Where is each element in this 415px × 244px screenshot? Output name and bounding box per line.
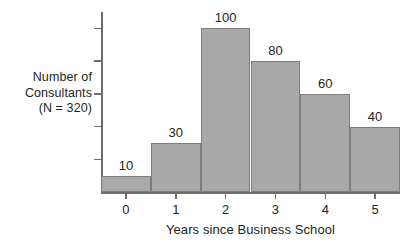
x-axis-line [101, 192, 400, 194]
bar [101, 176, 151, 192]
x-axis-tick [225, 192, 227, 199]
x-axis-title: Years since Business School [101, 222, 400, 237]
x-axis-tick [374, 192, 376, 199]
y-axis-tick [94, 28, 101, 30]
x-axis-tick-label: 3 [260, 202, 290, 217]
bar [350, 127, 400, 192]
bar [151, 143, 201, 192]
y-axis-label: Number of Consultants (N = 320) [0, 70, 92, 117]
histogram-chart: Number of Consultants (N = 320) 012345 1… [0, 0, 415, 244]
x-axis-tick [275, 192, 277, 199]
x-axis-tick-label: 0 [111, 202, 141, 217]
y-axis-tick [94, 60, 101, 62]
x-axis-tick-label: 2 [211, 202, 241, 217]
x-axis-tick [325, 192, 327, 199]
x-axis-tick [175, 192, 177, 199]
y-axis-label-line-1: Number of [0, 70, 92, 86]
x-axis-tick [125, 192, 127, 199]
bar [251, 61, 301, 192]
bar-value-label: 10 [103, 158, 149, 173]
y-axis-tick [94, 159, 101, 161]
bar-value-label: 100 [203, 10, 249, 25]
plot-area: 012345 1030100806040 [101, 12, 400, 192]
bar-value-label: 30 [153, 125, 199, 140]
bar-value-label: 80 [252, 43, 298, 58]
bar-value-label: 40 [352, 109, 398, 124]
y-axis-tick [94, 126, 101, 128]
x-axis-tick-label: 1 [161, 202, 191, 217]
bar-value-label: 60 [302, 76, 348, 91]
y-axis-label-line-2: Consultants [0, 86, 92, 102]
x-axis-tick-label: 5 [360, 202, 390, 217]
bar [300, 94, 350, 192]
x-axis-tick-label: 4 [310, 202, 340, 217]
bar [201, 28, 251, 192]
y-axis-tick [94, 93, 101, 95]
y-axis-label-line-3: (N = 320) [0, 101, 92, 117]
